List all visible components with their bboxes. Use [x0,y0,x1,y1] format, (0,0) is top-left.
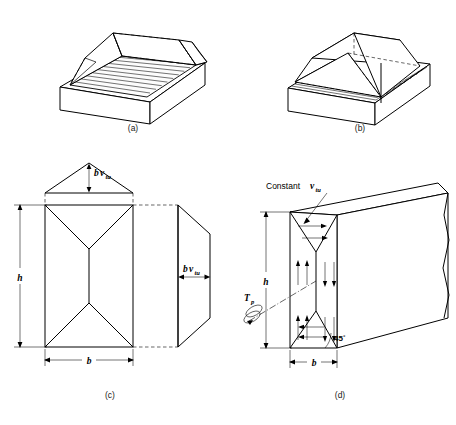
panel-d-block-front-face [290,212,337,348]
panel-c-width-label: b [87,356,92,366]
panel-d-width-label: b [312,358,317,368]
panel-c-side-stress-label-prefix: b [183,264,188,274]
panel-a-caption: (a) [128,123,139,133]
panel-d-constant-label-text: Constant [266,181,301,191]
panel-b-caption: (b) [355,123,366,133]
panel-c-height-label: h [17,273,22,283]
panel-c-side-stress-label-subscript: tu [195,269,201,276]
figure-root: (a) [0,0,456,425]
figure-svg: (a) [0,0,456,425]
panel-d-constant-label-subscript: tu [316,186,322,193]
panel-c-caption: (c) [105,390,115,400]
panel-c-top-stress-label-prefix: b [94,168,99,178]
panel-c-top-stress-label-subscript: tu [106,173,112,180]
panel-d-height-label: h [263,277,268,287]
panel-d-caption: (d) [335,390,346,400]
